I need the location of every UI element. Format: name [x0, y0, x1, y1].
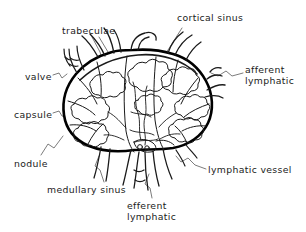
label-trabeculae: trabeculae: [62, 25, 115, 36]
lymph-node-figure: trabeculae cortical sinus afferent lymph…: [0, 0, 306, 232]
leader-valve: [53, 73, 67, 78]
label-efferent-lymphatic-line1: efferent: [127, 200, 176, 211]
label-lymphatic-vessel: lymphatic vessel: [208, 164, 292, 175]
label-cortical-sinus: cortical sinus: [177, 12, 243, 23]
label-afferent-lymphatic-line1: afferent: [245, 64, 294, 75]
label-efferent-lymphatic-line2: lymphatic: [127, 211, 176, 222]
label-efferent-lymphatic: efferent lymphatic: [127, 200, 176, 223]
label-afferent-lymphatic-line2: lymphatic: [245, 75, 294, 86]
label-afferent-lymphatic: afferent lymphatic: [245, 64, 294, 87]
label-medullary-sinus: medullary sinus: [47, 184, 126, 195]
label-nodule: nodule: [14, 158, 48, 169]
label-valve: valve: [25, 71, 52, 82]
leader-nodule: [41, 136, 63, 155]
label-capsule: capsule: [14, 109, 52, 120]
lymphatic-vessel-right: [176, 145, 197, 166]
